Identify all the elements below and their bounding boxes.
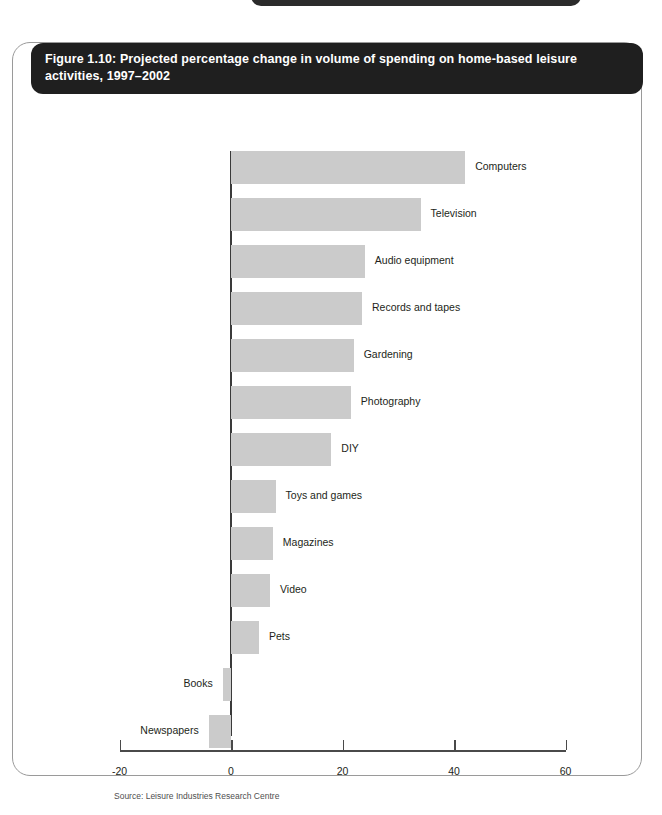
bar bbox=[231, 151, 465, 184]
x-axis-tick-label: 20 bbox=[337, 765, 349, 777]
bar-row: Gardening bbox=[13, 339, 641, 386]
x-axis-tick bbox=[566, 740, 568, 750]
chart-plot-area: ComputersTelevisionAudio equipmentRecord… bbox=[13, 105, 641, 775]
bar-series: ComputersTelevisionAudio equipmentRecord… bbox=[13, 151, 641, 762]
bar-row: Records and tapes bbox=[13, 292, 641, 339]
bar-row: Photography bbox=[13, 386, 641, 433]
bar-row: Computers bbox=[13, 151, 641, 198]
bar-category-label: Computers bbox=[475, 159, 526, 173]
bar-category-label: Newspapers bbox=[140, 723, 198, 737]
bar bbox=[231, 574, 270, 607]
bar bbox=[231, 339, 354, 372]
x-axis-tick bbox=[343, 740, 345, 750]
x-axis-tick-label: 0 bbox=[228, 765, 234, 777]
bar bbox=[231, 198, 421, 231]
bar-row: DIY bbox=[13, 433, 641, 480]
page-above-bleed-spacer bbox=[0, 26, 662, 29]
x-axis-tick-label: -20 bbox=[112, 765, 127, 777]
bar-row: Books bbox=[13, 668, 641, 715]
bar-row: Video bbox=[13, 574, 641, 621]
bar-category-label: Video bbox=[280, 582, 307, 596]
bar bbox=[231, 433, 331, 466]
figure-panel: Figure 1.10: Projected percentage change… bbox=[12, 42, 642, 776]
bar-category-label: Pets bbox=[269, 629, 290, 643]
bar bbox=[231, 245, 365, 278]
bar-row: Pets bbox=[13, 621, 641, 668]
bar-row: Newspapers bbox=[13, 715, 641, 762]
bar-row: Audio equipment bbox=[13, 245, 641, 292]
chart-source-note: Source: Leisure Industries Research Cent… bbox=[114, 791, 279, 801]
bar bbox=[223, 668, 231, 701]
bar-category-label: Toys and games bbox=[286, 488, 362, 502]
bar-row: Television bbox=[13, 198, 641, 245]
x-axis-tick bbox=[231, 740, 233, 750]
page-above-bleed-element bbox=[251, 0, 581, 6]
bar-category-label: Television bbox=[431, 206, 477, 220]
bar bbox=[231, 386, 351, 419]
x-axis-tick bbox=[454, 740, 456, 750]
bar-category-label: Photography bbox=[361, 394, 421, 408]
bar-category-label: DIY bbox=[341, 441, 359, 455]
x-axis-line bbox=[120, 750, 566, 752]
x-axis-tick-label: 40 bbox=[448, 765, 460, 777]
bar-category-label: Magazines bbox=[283, 535, 334, 549]
bar-category-label: Gardening bbox=[364, 347, 413, 361]
bar bbox=[209, 715, 231, 748]
bar-row: Toys and games bbox=[13, 480, 641, 527]
x-axis-tick bbox=[120, 740, 122, 750]
bar-category-label: Audio equipment bbox=[375, 253, 454, 267]
bar bbox=[231, 621, 259, 654]
bar-row: Magazines bbox=[13, 527, 641, 574]
x-axis-tick-label: 60 bbox=[560, 765, 572, 777]
figure-title: Figure 1.10: Projected percentage change… bbox=[31, 43, 643, 94]
bar bbox=[231, 527, 273, 560]
bar bbox=[231, 292, 362, 325]
bar-category-label: Records and tapes bbox=[372, 300, 460, 314]
bar-category-label: Books bbox=[183, 676, 212, 690]
bar bbox=[231, 480, 276, 513]
